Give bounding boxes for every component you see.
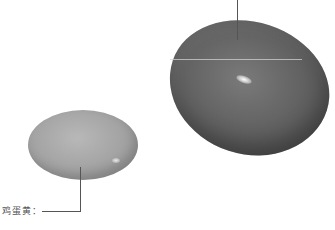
small-yolk-highlight: [112, 158, 120, 163]
yolk-leader-line-vertical: [80, 167, 81, 211]
large-egg-section-line: [170, 59, 302, 60]
yolk-label: 鸡蛋黄：: [2, 204, 42, 217]
diagram-stage: 鸡蛋黄：: [0, 0, 335, 230]
yolk-leader-line-horizontal: [42, 211, 81, 212]
large-egg-leader-line: [237, 0, 238, 40]
small-yolk-shape: [28, 110, 138, 180]
large-egg-shape: [152, 0, 335, 176]
